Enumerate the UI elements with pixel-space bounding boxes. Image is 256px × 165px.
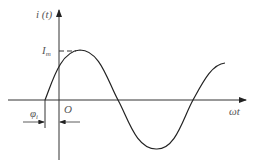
y-axis-label: i (t): [36, 9, 52, 20]
amplitude-label: Im: [42, 45, 51, 58]
origin-label: O: [64, 104, 72, 115]
x-axis-label: ωt: [229, 106, 240, 117]
waveform-diagram: [0, 0, 256, 165]
phase-label: φi: [30, 108, 38, 121]
